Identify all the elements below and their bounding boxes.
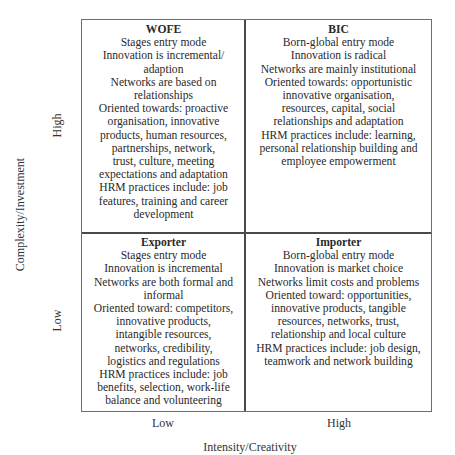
quadrant-line: Innovation is incremental/ [84,49,243,62]
quadrant-line: balance and volunteering [84,394,243,407]
quadrant-line: relationship and local culture [245,328,432,341]
quadrant-title: Importer [245,236,432,249]
y-axis-low-label: Low [50,306,65,336]
quadrant-line: logistics and regulations [84,355,243,368]
quadrant-line: informal [84,289,243,302]
quadrant-line: Stages entry mode [84,249,243,262]
quadrant-line: expectations and adaptation [84,168,243,181]
quadrant-line: development [84,208,243,221]
quadrant-line: Networks are both formal and [84,276,243,289]
quadrant-line: innovative products, tangible [245,302,432,315]
quadrant-line: personal relationship building and [245,142,432,155]
quadrant-line: Oriented toward: competitors, [84,302,243,315]
quadrant-title: BIC [245,23,432,36]
quadrant-line: relationships and adaptation [245,115,432,128]
quadrant-line: features, training and career [84,195,243,208]
quadrant-line: Stages entry mode [84,36,243,49]
quadrant-bic: BIC Born-global entry mode Innovation is… [245,20,432,232]
quadrant-line: intangible resources, [84,328,243,341]
quadrant-line: Innovation is radical [245,49,432,62]
quadrant-line: Innovation is incremental [84,262,243,275]
quadrant-line: networks, credibility, [84,342,243,355]
quadrant-line: Innovation is market choice [245,262,432,275]
quadrant-importer: Importer Born-global entry mode Innovati… [245,233,432,411]
quadrant-line: Oriented toward: opportunities, [245,289,432,302]
quadrant-exporter: Exporter Stages entry mode Innovation is… [82,233,244,411]
quadrant-line: Networks limit costs and problems [245,276,432,289]
quadrant-title: Exporter [84,236,243,249]
y-axis-high-label: High [50,111,65,141]
quadrant-line: Networks are based on [84,76,243,89]
quadrant-line: adaption [84,63,243,76]
quadrant-line: HRM practices include: job [84,368,243,381]
x-axis-low-label: Low [140,416,186,431]
quadrant-line: Networks are mainly institutional [245,63,432,76]
quadrant-line: teamwork and network building [245,355,432,368]
x-axis-title: Intensity/Creativity [170,440,330,455]
quadrant-line: innovative products, [84,315,243,328]
quadrant-line: Born-global entry mode [245,36,432,49]
quadrant-title: WOFE [84,23,243,36]
quadrant-line: Oriented towards: proactive [84,102,243,115]
quadrant-line: products, human resources, [84,129,243,142]
quadrant-line: HRM practices include: learning, [245,129,432,142]
quadrant-line: innovative organisation, [245,89,432,102]
quadrant-line: HRM practices include: job [84,181,243,194]
quadrant-line: benefits, selection, work-life [84,381,243,394]
quadrant-line: resources, capital, social [245,102,432,115]
quadrant-line: relationships [84,89,243,102]
quadrant-line: HRM practices include: job design, [245,342,432,355]
quadrant-wofe: WOFE Stages entry mode Innovation is inc… [82,20,244,232]
y-axis-title: Complexity/Investment [13,145,28,285]
quadrant-line: partnerships, network, [84,142,243,155]
quadrant-line: Oriented towards: opportunistic [245,76,432,89]
quadrant-line: Born-global entry mode [245,249,432,262]
quadrant-line: employee empowerment [245,155,432,168]
quadrant-line: organisation, innovative [84,115,243,128]
quadrant-line: trust, culture, meeting [84,155,243,168]
x-axis-high-label: High [316,416,362,431]
quadrant-grid: WOFE Stages entry mode Innovation is inc… [81,19,432,412]
quadrant-line: resources, networks, trust, [245,315,432,328]
